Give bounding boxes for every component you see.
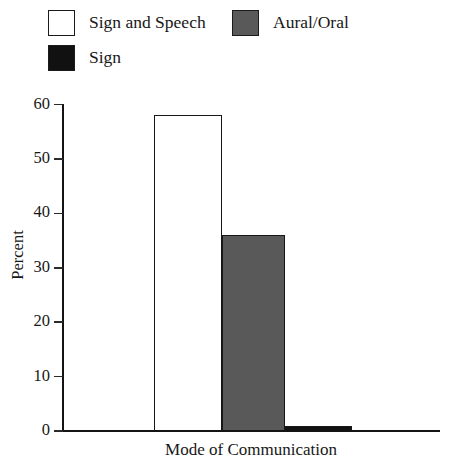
y-tick-0 [54, 430, 63, 432]
y-tick-label-20: 20 [0, 313, 50, 330]
y-tick-50 [54, 158, 63, 160]
y-tick-label-60: 60 [0, 96, 50, 113]
y-tick-10 [54, 376, 63, 378]
bar-chart-figure: Sign and Speech Aural/Oral Sign 01020304… [0, 0, 450, 466]
bar-sign-and-speech [154, 115, 222, 431]
x-axis-line [62, 430, 440, 432]
y-tick-label-50: 50 [0, 150, 50, 167]
y-tick-label-0: 0 [0, 422, 50, 439]
bar-aural-oral [222, 235, 285, 431]
y-tick-20 [54, 321, 63, 323]
y-axis-title: Percent [8, 215, 28, 295]
y-tick-30 [54, 267, 63, 269]
plot-area: 0102030405060 Percent Mode of Communicat… [0, 0, 450, 466]
y-tick-40 [54, 213, 63, 215]
y-tick-label-10: 10 [0, 368, 50, 385]
x-axis-title: Mode of Communication [62, 440, 440, 460]
y-tick-60 [54, 104, 63, 106]
